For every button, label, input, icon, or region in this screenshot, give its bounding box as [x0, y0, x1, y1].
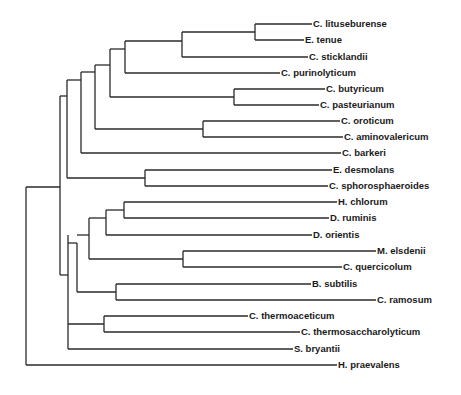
- taxon-label: H. praevalens: [338, 359, 400, 370]
- taxon-label: E. tenue: [305, 34, 342, 45]
- taxon-label: C. thermoaceticum: [249, 310, 335, 321]
- taxon-label: C. lituseburense: [313, 18, 387, 29]
- taxon-label: C. thermosaccharolyticum: [301, 326, 420, 337]
- taxon-label: C. pasteurianum: [320, 99, 394, 110]
- taxon-label: C. aminovalericum: [344, 131, 428, 142]
- taxon-label: C. butyricum: [326, 83, 384, 94]
- taxon-label: S. bryantii: [294, 343, 340, 354]
- taxon-label: E. desmolans: [333, 164, 394, 175]
- taxon-label: C. sphorosphaeroides: [329, 180, 429, 191]
- taxon-labels: C. lituseburenseE. tenueC. sticklandiiC.…: [249, 18, 432, 370]
- taxon-label: C. quercicolum: [343, 261, 412, 272]
- taxon-label: H. chlorum: [338, 196, 388, 207]
- taxon-label: M. elsdenii: [377, 245, 426, 256]
- taxon-label: C. purinolyticum: [281, 67, 356, 78]
- taxon-label: C. barkeri: [342, 147, 386, 158]
- taxon-label: B. subtilis: [312, 278, 357, 289]
- taxon-label: D. orientis: [313, 229, 359, 240]
- phylogenetic-tree: C. lituseburenseE. tenueC. sticklandiiC.…: [0, 0, 461, 395]
- taxon-label: C. ramosum: [377, 294, 432, 305]
- taxon-label: D. ruminis: [330, 212, 376, 223]
- taxon-label: C. sticklandii: [309, 51, 368, 62]
- taxon-label: C. oroticum: [341, 115, 394, 126]
